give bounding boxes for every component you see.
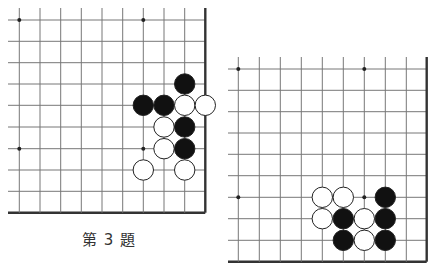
black-stone	[375, 230, 395, 250]
star-point	[236, 195, 240, 199]
go-board-problem-3	[8, 8, 216, 213]
go-board-second	[228, 57, 427, 262]
star-point	[141, 147, 145, 151]
go-diagram	[0, 0, 435, 277]
white-stone	[333, 187, 353, 207]
star-point	[17, 147, 21, 151]
star-point	[236, 67, 240, 71]
black-stone	[175, 74, 195, 94]
white-stone	[354, 209, 374, 229]
white-stone	[133, 160, 153, 180]
white-stone	[354, 230, 374, 250]
white-stone	[312, 187, 332, 207]
black-stone	[133, 95, 153, 115]
star-point	[17, 18, 21, 22]
star-point	[362, 195, 366, 199]
white-stone	[154, 117, 174, 137]
black-stone	[375, 209, 395, 229]
black-stone	[175, 139, 195, 159]
black-stone	[333, 230, 353, 250]
black-stone	[175, 117, 195, 137]
white-stone	[175, 95, 195, 115]
white-stone	[312, 209, 332, 229]
white-stone	[195, 95, 215, 115]
black-stone	[375, 187, 395, 207]
star-point	[362, 67, 366, 71]
black-stone	[333, 209, 353, 229]
black-stone	[154, 95, 174, 115]
problem-caption: 第 3 題	[74, 228, 144, 249]
white-stone	[154, 139, 174, 159]
white-stone	[175, 160, 195, 180]
star-point	[141, 18, 145, 22]
